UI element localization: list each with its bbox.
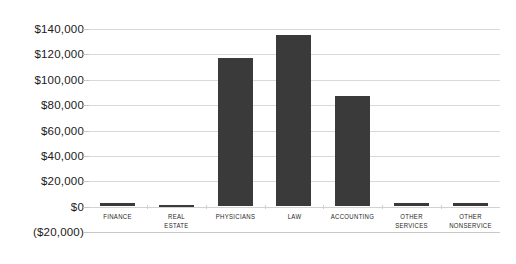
y-axis-tick-label: $60,000 — [0, 125, 84, 136]
x-axis-tick-label: ACCOUNTING — [325, 213, 379, 222]
y-axis-tick-label: $20,000 — [0, 176, 84, 187]
x-axis-tick-mark — [265, 205, 266, 209]
plot-area: FINANCEREAL ESTATEPHYSICIANSLAWACCOUNTIN… — [88, 0, 500, 264]
x-axis-tick-mark — [382, 205, 383, 209]
y-axis-tick-label: $120,000 — [0, 49, 84, 60]
x-axis-tick-label: OTHER SERVICES — [384, 213, 438, 230]
x-axis-tick-label: REAL ESTATE — [149, 213, 203, 230]
x-axis-tick-mark — [323, 205, 324, 209]
y-axis-tick-label: $0 — [0, 201, 84, 212]
y-axis-tick-label: $80,000 — [0, 100, 84, 111]
x-axis-tick-label: FINANCE — [90, 213, 144, 222]
y-axis-tick-label: $100,000 — [0, 74, 84, 85]
x-axis-tick-label: PHYSICIANS — [208, 213, 262, 222]
y-axis-tick-label: $40,000 — [0, 150, 84, 161]
bar-chart: $140,000$120,000$100,000$80,000$60,000$4… — [0, 0, 516, 264]
y-axis-tick-label: $140,000 — [0, 24, 84, 35]
x-axis-tick-mark — [147, 205, 148, 209]
x-axis-tick-label: LAW — [267, 213, 321, 222]
x-axis-tick-label: OTHER NONSERVICE — [443, 213, 497, 230]
y-axis-tick-label: ($20,000) — [0, 227, 84, 238]
x-axis-tick-mark — [441, 205, 442, 209]
y-axis-tick-labels: $140,000$120,000$100,000$80,000$60,000$4… — [0, 0, 84, 264]
x-axis-tick-mark — [206, 205, 207, 209]
x-axis-tick-labels: FINANCEREAL ESTATEPHYSICIANSLAWACCOUNTIN… — [88, 0, 500, 264]
